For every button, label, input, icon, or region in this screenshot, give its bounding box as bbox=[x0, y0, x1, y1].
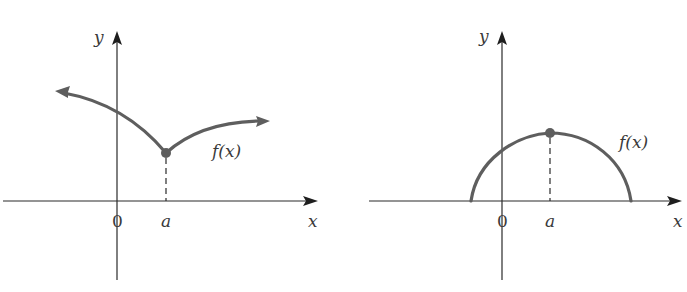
left-y-label: y bbox=[93, 27, 104, 47]
right-function-label: f(x) bbox=[617, 132, 648, 152]
left-curve-left-arrow-icon bbox=[55, 86, 70, 98]
left-curve-right-arrow-icon bbox=[256, 116, 270, 127]
left-curve-left-branch bbox=[64, 93, 166, 153]
figure-canvas: y x 0 a f(x) y x 0 a f(x) bbox=[0, 0, 687, 292]
right-curve-arc bbox=[471, 133, 631, 201]
left-origin-label: 0 bbox=[112, 211, 123, 231]
left-x-label: x bbox=[308, 211, 318, 231]
right-x-label: x bbox=[673, 211, 683, 231]
right-y-label: y bbox=[478, 26, 489, 46]
left-function-label: f(x) bbox=[210, 141, 241, 161]
left-min-point bbox=[161, 148, 171, 158]
right-a-label: a bbox=[545, 211, 555, 231]
right-graph: y x 0 a f(x) bbox=[369, 26, 683, 280]
right-max-point bbox=[545, 128, 555, 138]
left-a-label: a bbox=[161, 211, 171, 231]
right-origin-label: 0 bbox=[497, 211, 508, 231]
left-graph: y x 0 a f(x) bbox=[3, 27, 318, 280]
